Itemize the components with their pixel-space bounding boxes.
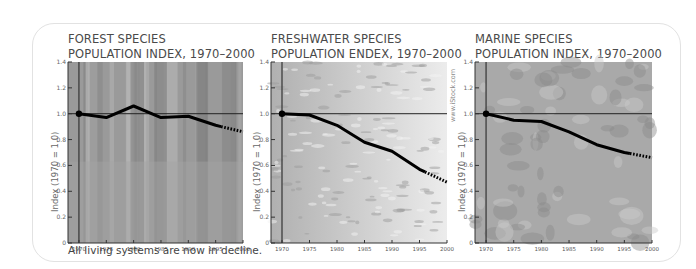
y-tick-label: 0.6 — [463, 161, 473, 168]
y-tick-label: 0.8 — [259, 136, 269, 143]
x-tick-label: 1985 — [562, 246, 576, 252]
y-tick-label: 1.0 — [463, 110, 473, 117]
y-tick-label: 0.4 — [259, 187, 269, 194]
x-tick-label: 2000 — [645, 246, 659, 252]
forest-title-line2: POPULATION INDEX, 1970–2000 — [68, 47, 255, 62]
y-tick-label: 0.4 — [56, 187, 66, 194]
x-tick-label: 1975 — [303, 246, 317, 252]
y-tick-label: 1.4 — [259, 58, 269, 65]
marine-title-line1: MARINE SPECIES — [475, 32, 662, 47]
y-tick-label: 1.0 — [56, 110, 66, 117]
photo-background — [267, 61, 447, 244]
freshwater-title-line2: POPULATION ENDEX, 1970–2000 — [271, 47, 462, 62]
y-tick-label: 0 — [62, 239, 66, 246]
y-tick-label: 0.8 — [463, 136, 473, 143]
baseline-point — [76, 111, 82, 117]
caption: All living systems are now in decline. — [68, 244, 262, 256]
marine-ylabel: Index (1970 = 1.0) — [457, 132, 467, 212]
x-tick-label: 1995 — [413, 246, 427, 252]
x-tick-label: 1985 — [358, 246, 372, 252]
x-tick-label: 1980 — [330, 246, 344, 252]
y-tick-label: 0.2 — [56, 213, 66, 220]
x-tick-label: 1970 — [275, 246, 289, 252]
freshwater-title-line1: FRESHWATER SPECIES — [271, 32, 462, 47]
y-tick-label: 0.2 — [463, 213, 473, 220]
x-tick-label: 1980 — [534, 246, 548, 252]
forest-plot: 00.20.40.60.81.01.21.4197019751980198519… — [68, 62, 243, 244]
baseline-point — [483, 111, 489, 117]
baseline-point — [279, 111, 285, 117]
freshwater-title: FRESHWATER SPECIES POPULATION ENDEX, 197… — [271, 32, 462, 62]
y-tick-label: 1.4 — [463, 58, 473, 65]
y-tick-label: 1.2 — [56, 84, 66, 91]
forest-title: FOREST SPECIES POPULATION INDEX, 1970–20… — [68, 32, 255, 62]
y-tick-label: 1.0 — [259, 110, 269, 117]
x-tick-label: 1990 — [590, 246, 604, 252]
x-tick-label: 2000 — [440, 246, 454, 252]
y-tick-label: 0.4 — [463, 187, 473, 194]
y-tick-label: 0 — [469, 239, 473, 246]
freshwater-plot: 00.20.40.60.81.01.21.4197019751980198519… — [271, 62, 447, 244]
y-tick-label: 0.2 — [259, 213, 269, 220]
y-tick-label: 0.6 — [56, 161, 66, 168]
forest-ylabel: Index (1970 = 1.0) — [50, 132, 60, 212]
forest-chart: 00.20.40.60.81.01.21.4197019751980198519… — [68, 62, 243, 244]
y-tick-label: 1.2 — [463, 84, 473, 91]
x-tick-label: 1990 — [385, 246, 399, 252]
x-tick-label: 1970 — [479, 246, 493, 252]
photo-credit: www.iStock.com — [449, 69, 457, 122]
y-tick-label: 1.2 — [259, 84, 269, 91]
x-tick-label: 1995 — [617, 246, 631, 252]
y-tick-label: 1.4 — [56, 58, 66, 65]
y-tick-label: 0.8 — [56, 136, 66, 143]
freshwater-chart: 00.20.40.60.81.01.21.4197019751980198519… — [271, 62, 447, 244]
x-tick-label: 1975 — [507, 246, 521, 252]
freshwater-ylabel: Index (1970 = 1.0) — [252, 132, 262, 212]
y-tick-label: 0.6 — [259, 161, 269, 168]
forest-title-line1: FOREST SPECIES — [68, 32, 255, 47]
y-tick-label: 0 — [265, 239, 269, 246]
marine-chart: 00.20.40.60.81.01.21.4197019751980198519… — [475, 62, 652, 244]
marine-plot: 00.20.40.60.81.01.21.4197019751980198519… — [475, 62, 652, 244]
photo-background — [68, 62, 243, 243]
